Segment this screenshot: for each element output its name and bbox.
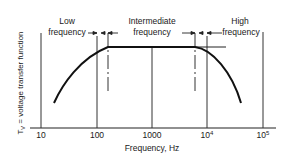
region-mid-line1: Intermediate bbox=[128, 16, 176, 26]
region-low-line2: frequency bbox=[48, 27, 86, 37]
response-curve bbox=[54, 47, 241, 103]
y-axis-label: TV = voltage transfer function bbox=[16, 31, 26, 134]
frequency-response-chart: Low frequency Intermediate frequency Hig… bbox=[0, 0, 287, 161]
region-high-line1: High bbox=[231, 16, 249, 26]
x-tick-100000: 105 bbox=[257, 130, 270, 141]
x-tick-10: 10 bbox=[36, 130, 46, 140]
region-low-line1: Low bbox=[59, 16, 75, 26]
x-tick-100: 100 bbox=[90, 130, 104, 140]
x-axis-label: Frequency, Hz bbox=[125, 143, 180, 153]
low-region-arrow bbox=[88, 32, 118, 35]
high-region-arrow bbox=[182, 32, 222, 35]
region-high-line2: frequency bbox=[222, 27, 260, 37]
region-mid-line2: frequency bbox=[133, 27, 171, 37]
x-tick-1000: 1000 bbox=[143, 130, 162, 140]
x-tick-10000: 104 bbox=[201, 130, 214, 141]
